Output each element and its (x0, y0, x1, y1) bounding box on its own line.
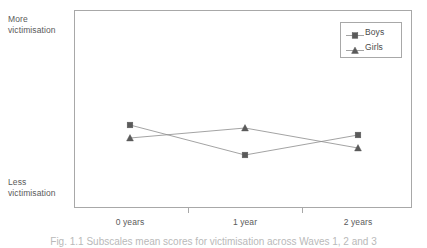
y-axis-anchor-more-line1: More (8, 14, 56, 25)
figure-caption: Fig. 1.1 Subscales mean scores for victi… (0, 236, 427, 247)
legend-item-girls[interactable]: Girls (341, 40, 401, 55)
victimisation-line-chart-figure: More victimisation Less victimisation 0 … (0, 0, 427, 248)
legend-marker-triangle-icon (345, 42, 365, 53)
legend-marker-square-icon (345, 27, 365, 38)
y-axis-anchor-less-line2: victimisation (8, 188, 56, 199)
y-axis-anchor-more: More victimisation (8, 14, 56, 35)
x-axis-label-0: 0 years (116, 217, 145, 227)
legend-label-boys: Boys (365, 27, 384, 38)
x-axis-tick (302, 208, 303, 213)
x-axis-label-1: 1 year (233, 217, 257, 227)
data-point-boys-2 (355, 132, 361, 138)
chart-legend: BoysGirls (340, 22, 402, 58)
data-point-girls-1 (242, 125, 249, 131)
data-point-boys-1 (242, 152, 248, 158)
legend-marker-glyph-boys (352, 33, 358, 39)
legend-label-girls: Girls (365, 42, 383, 53)
y-axis-anchor-more-line2: victimisation (8, 25, 56, 36)
y-axis-anchor-less-line1: Less (8, 177, 56, 188)
x-axis-tick (188, 208, 189, 213)
y-axis-anchor-less: Less victimisation (8, 177, 56, 198)
x-axis-label-2: 2 years (344, 217, 373, 227)
series-girls (127, 125, 362, 151)
legend-item-boys[interactable]: Boys (341, 25, 401, 40)
data-point-boys-0 (127, 122, 133, 128)
